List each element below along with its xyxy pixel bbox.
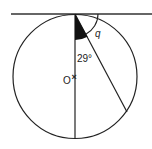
centre-mark-icon: × bbox=[72, 72, 77, 82]
angle-29-sector bbox=[75, 14, 88, 40]
angle-29-label: 29° bbox=[77, 53, 92, 64]
angle-q-label: q bbox=[95, 28, 101, 39]
centre-label: O bbox=[63, 75, 71, 86]
circle-diagram: q 29° O × bbox=[0, 0, 152, 149]
